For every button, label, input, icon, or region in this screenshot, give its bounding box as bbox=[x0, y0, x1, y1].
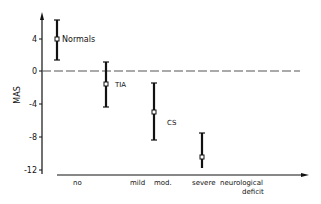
mean-marker bbox=[55, 37, 59, 41]
xtick-label-mod: mod. bbox=[154, 179, 172, 187]
xtick-label-severe: severe bbox=[192, 179, 215, 187]
label-tia: TIA bbox=[114, 81, 126, 89]
y-axis-label: MAS bbox=[13, 86, 22, 103]
error-bar-normals bbox=[54, 20, 60, 60]
ytick-label: -4 bbox=[29, 100, 37, 109]
mean-marker bbox=[104, 82, 108, 86]
error-bar-tia bbox=[103, 62, 109, 107]
ytick-label: -12 bbox=[24, 166, 37, 175]
mean-marker bbox=[200, 155, 204, 159]
mean-marker bbox=[152, 110, 156, 114]
ytick-label: 4 bbox=[32, 35, 37, 44]
x-caption-line1: neurological bbox=[220, 179, 263, 187]
label-cs: CS bbox=[167, 119, 177, 127]
error-bar-chart: 4 0 -4 -8 -12 MAS no mild mod. severe ne… bbox=[0, 0, 321, 204]
xtick-label-mild: mild bbox=[130, 179, 145, 187]
label-normals: Normals bbox=[62, 35, 95, 44]
error-bar-cs bbox=[151, 83, 157, 140]
error-bar-severe bbox=[199, 133, 205, 168]
ytick-label: 0 bbox=[32, 67, 37, 76]
x-axis-arrow-icon bbox=[301, 173, 309, 177]
y-axis-arrow-icon bbox=[40, 12, 44, 20]
xtick-label-no: no bbox=[73, 179, 82, 187]
x-caption-line2: deficit bbox=[242, 188, 264, 196]
ytick-label: -8 bbox=[29, 133, 37, 142]
